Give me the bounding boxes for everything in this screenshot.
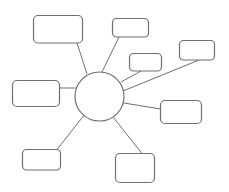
node-bottom-left[interactable] <box>23 150 61 171</box>
connector-line-top-left <box>77 43 87 74</box>
central-hub-circle[interactable] <box>75 72 124 121</box>
node-far-right[interactable] <box>180 41 215 61</box>
node-box-top-left[interactable] <box>34 16 83 44</box>
connector-line-top-middle <box>102 37 119 72</box>
spider-diagram <box>0 0 229 192</box>
connector-line-small-middle <box>121 71 141 82</box>
node-box-bottom-middle[interactable] <box>116 154 155 183</box>
node-box-left[interactable] <box>13 81 60 107</box>
connector-line-bottom-middle <box>113 117 142 154</box>
node-box-small-middle[interactable] <box>130 54 162 72</box>
node-top-left[interactable] <box>34 16 83 44</box>
node-left[interactable] <box>13 81 60 107</box>
node-bottom-middle[interactable] <box>116 154 155 183</box>
connector-line-bottom-left <box>57 114 85 150</box>
node-small-middle[interactable] <box>130 54 162 72</box>
node-box-bottom-left[interactable] <box>23 150 61 171</box>
node-right[interactable] <box>161 101 202 124</box>
node-box-far-right[interactable] <box>180 41 215 61</box>
node-top-middle[interactable] <box>113 19 149 38</box>
node-box-right[interactable] <box>161 101 202 124</box>
node-box-top-middle[interactable] <box>113 19 149 38</box>
connector-line-right <box>124 103 161 109</box>
